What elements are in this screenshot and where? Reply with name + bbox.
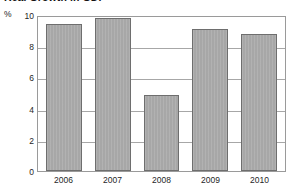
- x-tick-label-2006: 2006: [39, 176, 88, 185]
- x-tick-label-2008: 2008: [137, 176, 186, 185]
- y-tick-label-4: 4: [4, 105, 34, 114]
- bar-slot: [40, 17, 89, 171]
- x-tick-label-2010: 2010: [235, 176, 284, 185]
- x-tick-label-2009: 2009: [186, 176, 235, 185]
- bar-2010: [241, 34, 277, 171]
- chart-title: Real Growth in GDP: [4, 0, 106, 3]
- x-axis-tick-labels: 20062007200820092010: [37, 176, 286, 185]
- bar-series: [38, 17, 285, 171]
- bar-slot: [137, 17, 186, 171]
- bar-slot: [234, 17, 283, 171]
- y-axis-tick-labels: 0246810: [0, 16, 34, 172]
- bar-2006: [46, 24, 82, 171]
- bar-2009: [192, 29, 228, 171]
- bar-chart: Real Growth in GDP % 0246810 20062007200…: [0, 0, 299, 195]
- y-tick-label-0: 0: [4, 168, 34, 177]
- bar-slot: [89, 17, 138, 171]
- x-tick-label-2007: 2007: [88, 176, 137, 185]
- bar-2008: [144, 95, 180, 171]
- y-tick-label-8: 8: [4, 43, 34, 52]
- bar-slot: [186, 17, 235, 171]
- y-tick-label-2: 2: [4, 137, 34, 146]
- bar-2007: [95, 18, 131, 171]
- y-tick-label-6: 6: [4, 74, 34, 83]
- y-tick-label-10: 10: [4, 12, 34, 21]
- plot-area: [37, 16, 286, 172]
